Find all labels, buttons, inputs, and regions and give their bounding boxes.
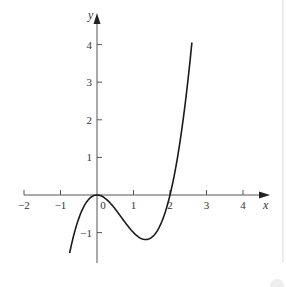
- side-divider: [282, 0, 284, 262]
- axes: [24, 13, 270, 263]
- y-tick-label: 3: [87, 76, 93, 88]
- x-tick-label: 4: [240, 199, 246, 211]
- y-axis-label: y: [87, 8, 94, 22]
- tick-labels: −2−101234−11234: [18, 39, 246, 239]
- y-tick-label: −1: [80, 227, 92, 239]
- curve-line: [70, 42, 192, 253]
- y-tick-label: 2: [87, 114, 93, 126]
- x-tick-label: 1: [131, 199, 137, 211]
- x-tick-label: −2: [18, 199, 30, 211]
- y-axis-arrow-icon: [94, 13, 101, 24]
- x-tick-label: 0: [100, 199, 106, 211]
- y-tick-label: 4: [87, 39, 93, 51]
- x-axis-label: x: [262, 198, 269, 212]
- x-tick-label: −1: [55, 199, 67, 211]
- y-tick-label: 1: [87, 151, 93, 163]
- corner-decoration: [270, 279, 284, 287]
- x-tick-label: 3: [204, 199, 210, 211]
